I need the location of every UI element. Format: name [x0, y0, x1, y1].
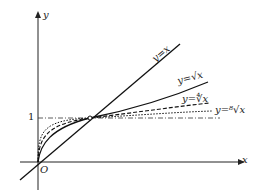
- curve-8th-root: [38, 111, 212, 162]
- tick-1: 1: [28, 111, 34, 122]
- label-4th-root: y=∜x: [182, 93, 208, 104]
- plot-svg: [0, 0, 258, 196]
- curve-y-x: [20, 44, 180, 180]
- y-label: y: [43, 9, 49, 20]
- y-arrow-icon: [35, 11, 41, 18]
- origin-label: O: [40, 164, 48, 175]
- label-8th-root: y=⁸√x: [215, 104, 245, 115]
- x-label: x: [242, 154, 248, 165]
- intersection-point: [88, 116, 92, 120]
- diagram: x y O 1 y=x y=√x y=∜x y=⁸√x: [0, 0, 258, 196]
